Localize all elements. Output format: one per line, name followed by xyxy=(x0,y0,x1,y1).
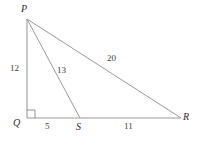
length-label-sr: 11 xyxy=(124,122,133,131)
right-angle-marker-icon xyxy=(27,110,35,118)
vertex-label-p: P xyxy=(21,4,27,14)
length-label-qs: 5 xyxy=(45,122,50,131)
segment-pr xyxy=(27,19,181,118)
segment-ps xyxy=(27,19,80,118)
geometry-figure: P Q S R 12 13 20 5 11 xyxy=(0,0,197,145)
length-label-pq: 12 xyxy=(10,64,19,73)
length-label-pr: 20 xyxy=(107,54,116,63)
geometry-canvas xyxy=(0,0,197,145)
vertex-label-s: S xyxy=(76,122,81,132)
vertex-label-q: Q xyxy=(13,118,20,128)
vertex-label-r: R xyxy=(183,112,189,122)
length-label-ps: 13 xyxy=(57,66,66,75)
